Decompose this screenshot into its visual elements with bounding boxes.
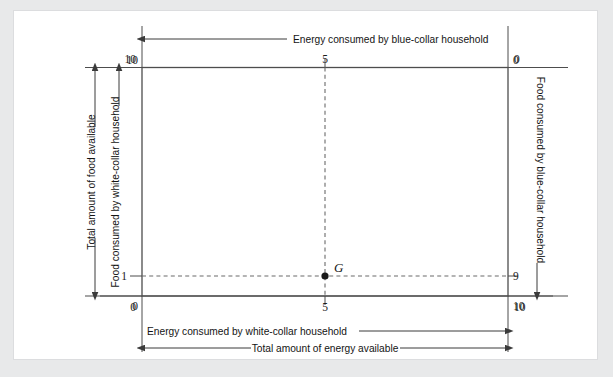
- top-axis: 10 5 0: [100, 26, 553, 68]
- edgeworth-box-figure: 10 5 0 Energy consumed by blue-collar ho…: [0, 0, 613, 377]
- guide-lines: [142, 68, 508, 297]
- bottom-outer-arrow-group: Total amount of energy available: [145, 343, 505, 354]
- edgeworth-box-rect: [142, 68, 508, 297]
- top-arrow-group: Energy consumed by blue-collar household: [145, 34, 489, 45]
- top-arrow-label: Energy consumed by blue-collar household: [293, 34, 489, 45]
- left-inner-arrow-group: Food consumed by white-collar household: [110, 71, 121, 287]
- point-g-marker[interactable]: [321, 272, 328, 279]
- left-inner-arrow-label: Food consumed by white-collar household: [110, 96, 121, 287]
- right-arrow-label: Food consumed by blue-collar household: [535, 77, 546, 264]
- bottom-inner-arrow-label: Energy consumed by white-collar househol…: [147, 326, 347, 337]
- left-outer-arrow-group: Total amount of food available: [86, 71, 97, 292]
- tick-left-one: 1: [121, 270, 127, 282]
- tick-bottom-mid: 5: [322, 301, 328, 313]
- tick-right-nine: 9: [513, 270, 519, 282]
- tick-right-zero: 0: [513, 54, 519, 66]
- tick-left-top: 10: [127, 54, 139, 66]
- bottom-outer-arrow-label: Total amount of energy available: [252, 343, 399, 354]
- left-outer-arrow-label: Total amount of food available: [86, 114, 97, 250]
- right-arrow-group: Food consumed by blue-collar household: [535, 77, 546, 292]
- tick-right-ten: 10: [513, 300, 525, 312]
- bottom-inner-arrow-group: Energy consumed by white-collar househol…: [147, 326, 505, 337]
- point-g-label: G: [334, 260, 344, 275]
- tick-top-mid: 5: [322, 53, 328, 65]
- figure-page: 10 5 0 Energy consumed by blue-collar ho…: [0, 0, 613, 377]
- tick-left-zero: 0: [132, 300, 138, 312]
